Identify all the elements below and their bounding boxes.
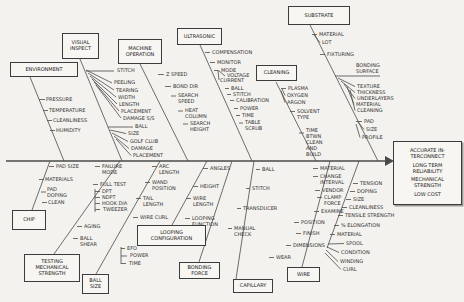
cause-label: TIME bbox=[129, 261, 141, 267]
cause-label: MATERIALS bbox=[45, 177, 73, 183]
cause-box-capillary: CAPILLARY bbox=[233, 279, 273, 293]
cause-box-bonding-force: BONDING FORCE bbox=[179, 262, 220, 279]
cause-label: EXAMINE bbox=[321, 209, 344, 215]
cause-label: PAD DOPING bbox=[47, 187, 63, 199]
cause-label: BALL SHEAR bbox=[80, 236, 94, 248]
cause-label: CLEAN bbox=[48, 200, 65, 206]
effect-line: LOW COST bbox=[414, 192, 441, 198]
cause-label: CLEANLINESS bbox=[53, 118, 87, 124]
cause-label: WEAR bbox=[276, 255, 291, 261]
cause-label: TEMPERATURE bbox=[49, 108, 85, 114]
cause-label: WIRE CURL bbox=[140, 215, 168, 221]
cause-label: HUMIDITY bbox=[56, 128, 81, 134]
cause-label: BALL bbox=[262, 167, 274, 173]
cause-label: ANGLES bbox=[210, 166, 230, 172]
cause-label: SOLVENT TYPE bbox=[297, 109, 317, 121]
cause-label: FINISH bbox=[303, 231, 320, 237]
cause-box-testing-mechanical-strength: TESTING MECHANICAL STRENGTH bbox=[24, 254, 80, 282]
cause-label: MATERIAL bbox=[320, 166, 345, 172]
cause-label: PLASMA bbox=[288, 86, 308, 92]
cause-label: AGING bbox=[84, 224, 100, 230]
effect-line: MECHANICAL STRENGTH bbox=[400, 177, 456, 189]
cause-label: TABLE SCRUB bbox=[245, 120, 261, 132]
cause-label: SIZE bbox=[366, 127, 377, 133]
fishbone-diagram: ENVIRONMENT VISUAL INSPECT MACHINE OPERA… bbox=[0, 0, 464, 302]
cause-label: WINDING bbox=[340, 259, 363, 265]
cause-label: FAILURE MODE bbox=[102, 164, 118, 176]
cause-label: LOOPING FUNCTION bbox=[192, 216, 212, 228]
cause-label: Z SPEED bbox=[166, 72, 187, 78]
cause-label: LOT bbox=[322, 40, 332, 46]
cause-label: MONITOR bbox=[217, 60, 241, 66]
cause-label: TIME BTWN CLEAN AND BUILD bbox=[306, 128, 332, 157]
effect-line: ACCURATE IN-TERCONNECT bbox=[400, 148, 456, 160]
cause-label: CURL bbox=[343, 267, 356, 273]
cause-label: BONDING SURFACE bbox=[356, 63, 376, 75]
cause-label: PEELING bbox=[114, 80, 135, 86]
cause-label: TIME bbox=[242, 113, 254, 119]
cause-label: FULL TEST bbox=[100, 182, 126, 188]
cause-label: POWER bbox=[130, 253, 149, 259]
cause-label: SEARCH SPEED bbox=[178, 93, 194, 105]
cause-label: TRANSDUCER bbox=[243, 206, 277, 212]
cause-label: BALL bbox=[135, 124, 147, 130]
cause-label: DIMENSIONS bbox=[293, 243, 325, 249]
cause-label: CHANGE INTERVAL bbox=[320, 174, 340, 186]
cause-box-substrate: SUBSTRATE bbox=[288, 6, 350, 25]
cause-label: FIXTURING bbox=[327, 52, 354, 58]
cause-box-machine-operation: MACHINE OPERATION bbox=[118, 39, 162, 64]
cause-label: MATERIAL bbox=[337, 232, 362, 238]
cause-label: TENSILE STRENGTH bbox=[345, 213, 394, 219]
cause-label: STITCH bbox=[252, 186, 270, 192]
cause-label: PLACEMENT bbox=[121, 109, 151, 115]
cause-label: MATERIAL bbox=[319, 32, 344, 38]
cause-box-ball-size: BALL SIZE bbox=[82, 274, 109, 294]
cause-label: CLAMP FORCE bbox=[324, 195, 340, 207]
cause-label: PAD bbox=[364, 119, 374, 125]
cause-label: SIZE bbox=[128, 131, 139, 137]
cause-label: ARGON bbox=[287, 100, 305, 106]
cause-label: GOLF CLUB bbox=[130, 139, 158, 145]
effect-line: LONG TERM RELIABILITY bbox=[400, 163, 456, 175]
cause-label: TAIL LENGTH bbox=[143, 196, 158, 208]
cause-label: % ELONGATION bbox=[341, 223, 380, 229]
cause-label: EFO bbox=[127, 246, 137, 252]
cause-label: POSITION bbox=[301, 220, 325, 226]
cause-box-ultrasonic: ULTRASONIC bbox=[177, 28, 222, 45]
cause-box-chip: CHIP bbox=[12, 210, 46, 230]
cause-label: CLEANING bbox=[357, 108, 383, 114]
cause-box-visual-inspect: VISUAL INSPECT bbox=[62, 33, 99, 59]
cause-label: TWEEZER bbox=[103, 207, 127, 213]
cause-label: PRESSURE bbox=[46, 97, 72, 103]
cause-label: DAMAGE bbox=[131, 146, 153, 152]
cause-box-environment: ENVIRONMENT bbox=[10, 62, 78, 77]
cause-label: OXYGEN bbox=[287, 93, 308, 99]
cause-label: WIRE LENGTH bbox=[193, 196, 208, 208]
cause-label: SIZE bbox=[353, 197, 364, 203]
cause-label: WAND POSITION bbox=[152, 180, 169, 192]
cause-label: CALIBRATION bbox=[236, 98, 269, 104]
cause-label: BOND DIR bbox=[173, 84, 198, 90]
effect-box: ACCURATE IN-TERCONNECT LONG TERM RELIABI… bbox=[393, 141, 462, 205]
cause-label: CONDITION bbox=[341, 250, 370, 256]
cause-label: CURRENT bbox=[220, 78, 244, 84]
cause-box-looping-configuration: LOOPING CONFIGURATION bbox=[137, 225, 206, 246]
cause-label: SPOOL bbox=[346, 241, 363, 247]
cause-label: LENGTH bbox=[119, 102, 139, 108]
cause-label: VENDOR bbox=[322, 188, 344, 194]
cause-label: HEIGHT bbox=[200, 184, 219, 190]
cause-box-wire: WIRE bbox=[287, 267, 320, 282]
cause-label: DAMAGE S/S bbox=[123, 116, 154, 122]
cause-label: ARC LENGTH bbox=[159, 164, 176, 176]
cause-label: STITCH bbox=[117, 68, 135, 74]
cause-label: TEARING bbox=[116, 88, 138, 94]
cause-label: PLACEMENT bbox=[133, 153, 163, 159]
cause-label: HEAT COLUMN bbox=[185, 108, 201, 120]
cause-label: CLEANLINESS bbox=[349, 205, 383, 211]
cause-label: MANUAL CHECK bbox=[234, 226, 251, 238]
cause-label: PAD SIZE bbox=[56, 164, 79, 170]
cause-label: COMPENSATION bbox=[212, 50, 252, 56]
cause-label: WIDTH bbox=[118, 95, 135, 101]
cause-label: SEARCH HEIGHT bbox=[190, 121, 206, 133]
cause-label: DOPING bbox=[357, 189, 377, 195]
